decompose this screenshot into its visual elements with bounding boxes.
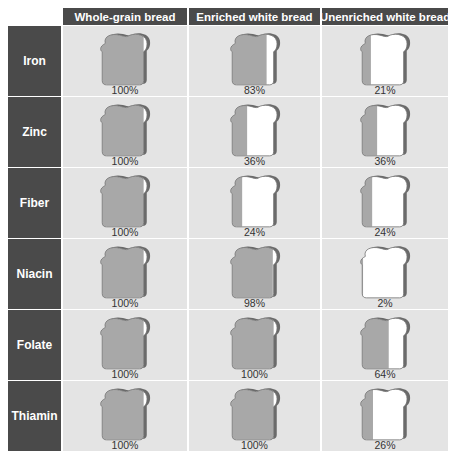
column-header-enriched-white: Enriched white bread [189,8,320,25]
bread-slice-icon [226,102,284,160]
data-cell: 36% [189,97,320,167]
bread-slice-icon [226,386,284,444]
data-cell: 26% [322,381,448,451]
row-header-iron: Iron [8,26,61,96]
bread-slice-icon [96,386,154,444]
nutrient-comparison-table: Whole-grain bread Enriched white bread U… [8,8,448,451]
data-cell: 36% [322,97,448,167]
bread-slice-icon [356,31,414,89]
row-header-niacin: Niacin [8,239,61,309]
row-header-thiamin: Thiamin [8,381,61,451]
data-cell: 64% [322,310,448,380]
percentage-label: 24% [322,226,448,238]
bread-slice-icon [356,315,414,373]
data-cell: 100% [63,168,187,238]
data-cell: 24% [189,168,320,238]
data-cell: 21% [322,26,448,96]
row-header-folate: Folate [8,310,61,380]
row-header-zinc: Zinc [8,97,61,167]
bread-slice-icon [226,315,284,373]
bread-slice-icon [356,244,414,302]
percentage-label: 36% [322,155,448,167]
data-cell: 100% [189,381,320,451]
percentage-label: 100% [63,439,187,451]
column-header-unenriched-white: Unenriched white bread [322,8,448,25]
percentage-label: 24% [189,226,320,238]
bread-slice-icon [96,102,154,160]
data-cell: 83% [189,26,320,96]
data-cell: 24% [322,168,448,238]
percentage-label: 100% [63,297,187,309]
percentage-label: 98% [189,297,320,309]
data-cell: 100% [63,26,187,96]
data-cell: 100% [189,310,320,380]
percentage-label: 2% [322,297,448,309]
percentage-label: 100% [63,84,187,96]
percentage-label: 100% [63,226,187,238]
bread-slice-icon [226,173,284,231]
percentage-label: 36% [189,155,320,167]
bread-slice-icon [96,315,154,373]
percentage-label: 83% [189,84,320,96]
column-header-whole-grain: Whole-grain bread [63,8,187,25]
percentage-label: 100% [63,368,187,380]
data-cell: 100% [63,310,187,380]
corner-cell [8,8,61,25]
bread-slice-icon [96,173,154,231]
data-cell: 100% [63,239,187,309]
bread-slice-icon [356,102,414,160]
bread-slice-icon [356,386,414,444]
percentage-label: 26% [322,439,448,451]
data-cell: 98% [189,239,320,309]
bread-slice-icon [96,244,154,302]
bread-slice-icon [226,244,284,302]
percentage-label: 100% [189,368,320,380]
row-header-fiber: Fiber [8,168,61,238]
data-cell: 100% [63,97,187,167]
bread-slice-icon [356,173,414,231]
percentage-label: 100% [189,439,320,451]
percentage-label: 21% [322,84,448,96]
data-cell: 2% [322,239,448,309]
bread-slice-icon [96,31,154,89]
data-cell: 100% [63,381,187,451]
bread-slice-icon [226,31,284,89]
percentage-label: 64% [322,368,448,380]
percentage-label: 100% [63,155,187,167]
